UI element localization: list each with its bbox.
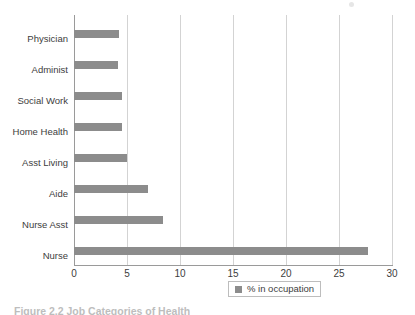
bar-physician: [74, 30, 119, 38]
gridline-25: [339, 15, 340, 265]
bar-nurse: [74, 247, 368, 255]
category-label-administ: Administ: [0, 65, 68, 75]
category-label-asst-living: Asst Living: [0, 158, 68, 168]
legend-label: % in occupation: [247, 284, 314, 294]
xtick-label-10: 10: [165, 268, 195, 279]
bar-asst-living: [74, 154, 127, 162]
gridline-20: [286, 15, 287, 265]
bar-home-health: [74, 123, 122, 131]
xtick-label-30: 30: [377, 268, 407, 279]
scan-artifact-speck: [349, 2, 354, 7]
category-label-physician: Physician: [0, 34, 68, 44]
xtick-label-0: 0: [59, 268, 89, 279]
category-axis-line: [74, 265, 393, 266]
bar-social-work: [74, 92, 122, 100]
category-label-nurse: Nurse: [0, 251, 68, 261]
xtick-label-5: 5: [112, 268, 142, 279]
category-label-social-work: Social Work: [0, 96, 68, 106]
gridline-5: [127, 15, 128, 265]
gridline-30: [392, 15, 393, 265]
xtick-label-20: 20: [271, 268, 301, 279]
chart-legend: % in occupation: [228, 281, 321, 297]
gridline-15: [233, 15, 234, 265]
xtick-label-15: 15: [218, 268, 248, 279]
bar-aide: [74, 185, 148, 193]
figure-caption: Figure 2.2 Job Categories of Health: [14, 305, 190, 315]
xtick-label-25: 25: [324, 268, 354, 279]
plot-area: [74, 15, 393, 265]
category-label-aide: Aide: [0, 189, 68, 199]
bar-administ: [74, 61, 118, 69]
category-label-home-health: Home Health: [0, 127, 68, 137]
bar-nurse-asst: [74, 216, 163, 224]
gridline-10: [180, 15, 181, 265]
chart-figure: Physician Administ Social Work Home Heal…: [0, 0, 415, 315]
value-axis-zero-line: [74, 15, 75, 265]
category-label-nurse-asst: Nurse Asst: [0, 220, 68, 230]
legend-swatch-icon: [235, 286, 242, 293]
